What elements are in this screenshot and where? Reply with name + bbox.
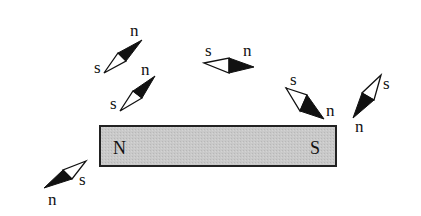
compass-4-n-label: n [326, 101, 335, 120]
compass-3-n-label: n [243, 41, 252, 60]
compass-needle-4: s n [286, 70, 335, 120]
compass-needle-2: s n [110, 60, 155, 113]
compass-6-n-label: n [48, 190, 57, 209]
compass-6-s-label: s [79, 170, 86, 189]
compass-needle-5: s n [353, 74, 390, 136]
compass-1-s-label: s [94, 58, 101, 77]
magnet-north-label: N [113, 138, 126, 158]
compass-5-n-label: n [355, 117, 364, 136]
compass-1-n-label: n [130, 21, 139, 40]
compass-4-s-label: s [290, 70, 297, 89]
magnet-south-label: S [310, 138, 320, 158]
compass-3-s-label: s [205, 41, 212, 60]
compass-2-s-label: s [110, 94, 117, 113]
compass-needle-6: s n [44, 161, 86, 209]
compass-5-s-label: s [383, 74, 390, 93]
compass-needle-1: s n [94, 21, 142, 77]
compass-needle-3: s n [204, 41, 254, 73]
compass-2-n-label: n [141, 60, 150, 79]
bar-magnet: N S [100, 126, 336, 166]
magnet-field-diagram: N S s n s n s n s n s n s [0, 0, 421, 216]
